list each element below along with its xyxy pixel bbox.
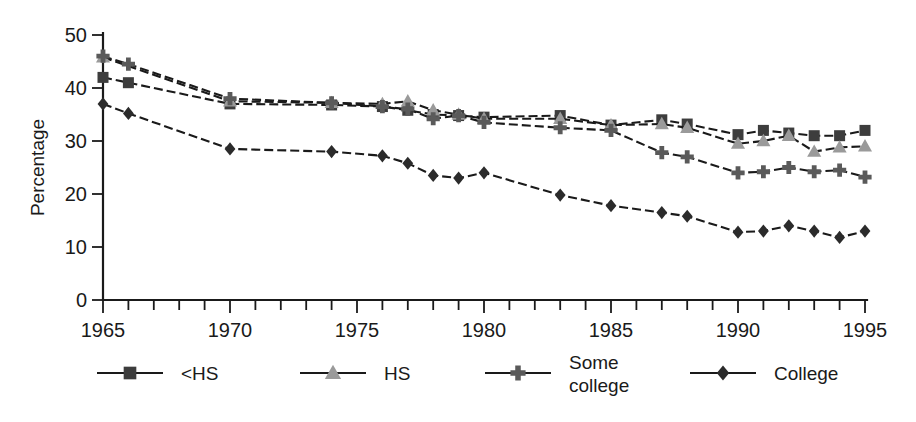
legend-label: College (774, 363, 838, 384)
legend-label: <HS (181, 363, 219, 384)
chart-figure: 01020304050 1965197019751980198519901995… (0, 0, 916, 422)
x-axis-tick-label: 1995 (843, 319, 888, 341)
marker-square (809, 130, 820, 141)
legend-label-line2: college (569, 375, 629, 396)
marker-square (123, 77, 134, 88)
x-axis-tick-label: 1985 (589, 319, 634, 341)
y-axis-tick-label: 50 (65, 24, 87, 46)
line-chart: 01020304050 1965197019751980198519901995… (0, 0, 916, 422)
y-axis-tick-label: 20 (65, 183, 87, 205)
y-axis-tick-label: 30 (65, 130, 87, 152)
x-axis-tick-label: 1965 (81, 319, 126, 341)
legend-label: HS (384, 363, 410, 384)
x-axis-tick-label: 1975 (335, 319, 380, 341)
y-axis-tick-label: 0 (76, 289, 87, 311)
marker-square (124, 367, 137, 380)
marker-square (98, 72, 109, 83)
x-axis-tick-label: 1990 (716, 319, 761, 341)
marker-square (860, 125, 871, 136)
y-axis-title: Percentage (27, 119, 48, 216)
x-axis-tick-label: 1970 (208, 319, 253, 341)
y-axis-label: Percentage (27, 119, 48, 216)
x-axis-tick-label: 1980 (462, 319, 507, 341)
y-axis-tick-label: 40 (65, 77, 87, 99)
chart-background (0, 0, 916, 422)
legend-label: Some (569, 352, 619, 373)
marker-square (834, 130, 845, 141)
y-axis-tick-label: 10 (65, 236, 87, 258)
